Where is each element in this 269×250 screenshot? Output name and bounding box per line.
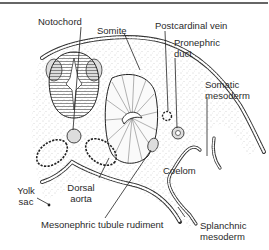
- label-pronephric-duct-1: Pronephric: [174, 37, 220, 48]
- label-somite: Somite: [97, 25, 127, 36]
- label-mesonephric-tubule-rudiment: Mesonephric tubule rudiment: [41, 219, 164, 230]
- label-dorsal-aorta-2: aorta: [63, 193, 99, 204]
- label-yolk-sac-1: Yolk: [14, 185, 38, 196]
- yolk-sac-dot: [48, 204, 51, 207]
- label-pronephric-duct-2: duct: [174, 48, 192, 59]
- label-somatic-mesoderm-2: mesoderm: [205, 90, 250, 101]
- label-yolk-sac-2: sac: [14, 196, 38, 207]
- diagram-drawing: [0, 0, 269, 250]
- label-coelom: Coelom: [163, 165, 196, 176]
- pronephric-duct-structure: [172, 127, 184, 139]
- label-postcardinal-vein: Postcardinal vein: [155, 20, 227, 31]
- label-dorsal-aorta-1: Dorsal: [63, 182, 99, 193]
- label-somatic-mesoderm-1: Somatic: [205, 79, 239, 90]
- label-notochord: Notochord: [38, 16, 82, 27]
- label-splanchnic-mesoderm-2: mesoderm: [200, 231, 245, 242]
- notochord-structure: [67, 129, 81, 143]
- embryo-cross-section-diagram: Notochord Somite Postcardinal vein Prone…: [0, 0, 269, 250]
- label-splanchnic-mesoderm-1: Splanchnic: [200, 220, 246, 231]
